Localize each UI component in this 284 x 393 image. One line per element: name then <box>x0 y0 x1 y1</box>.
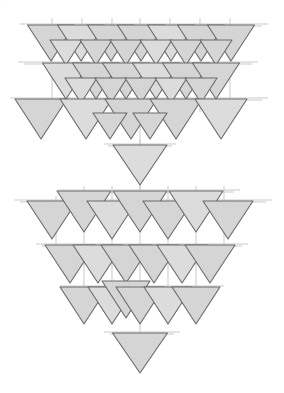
figure-root: ·· <box>0 0 284 393</box>
triangles-layer <box>15 25 255 373</box>
triangle-marker <box>203 201 253 239</box>
triangle-marker <box>15 99 67 139</box>
triangle-marker <box>113 333 168 373</box>
triangle-marker <box>195 99 247 139</box>
triangle-marker <box>113 145 167 185</box>
triangle-lattice-figure <box>0 0 284 393</box>
corner-mark: ·· <box>3 2 7 8</box>
